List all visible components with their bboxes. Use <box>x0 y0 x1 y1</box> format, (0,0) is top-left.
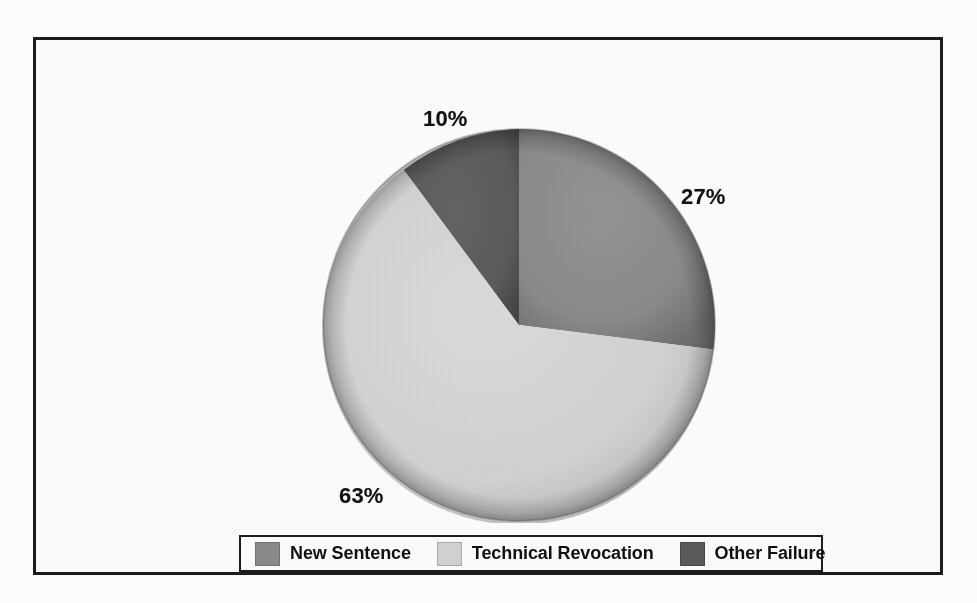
pie-chart <box>321 127 717 523</box>
pie-label-technical-revocation: 63% <box>339 483 384 509</box>
legend-label-technical-revocation: Technical Revocation <box>472 543 654 564</box>
legend-swatch-other-failure <box>680 542 705 566</box>
legend-item-new-sentence[interactable]: New Sentence <box>255 542 411 566</box>
legend-item-other-failure[interactable]: Other Failure <box>680 542 826 566</box>
legend-label-new-sentence: New Sentence <box>290 543 411 564</box>
chart-frame: 27% 10% 63% New Sentence Technical Revoc… <box>33 37 943 575</box>
pie-chart-svg <box>321 127 717 523</box>
legend-swatch-new-sentence <box>255 542 280 566</box>
legend-swatch-technical-revocation <box>437 542 462 566</box>
chart-legend: New Sentence Technical Revocation Other … <box>239 535 823 572</box>
legend-item-technical-revocation[interactable]: Technical Revocation <box>437 542 654 566</box>
pie-rim-shading <box>323 129 715 521</box>
legend-label-other-failure: Other Failure <box>715 543 826 564</box>
pie-label-other-failure: 10% <box>423 106 468 132</box>
pie-label-new-sentence: 27% <box>681 184 726 210</box>
